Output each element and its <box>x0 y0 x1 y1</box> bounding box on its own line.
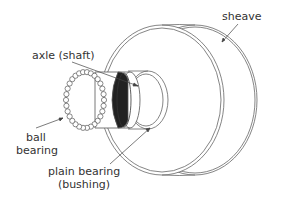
sheave-diagram: sheave axle (shaft) ball bearing plain b… <box>0 0 286 198</box>
ball-bearing-label-line1: ball <box>16 131 56 144</box>
axle-label: axle (shaft) <box>32 49 95 62</box>
bearing-ball <box>100 86 105 91</box>
plain-bearing-label-line1: plain bearing <box>48 165 120 178</box>
plain-bearing-label-line2: (bushing) <box>48 178 120 191</box>
bearing-ball <box>67 114 72 119</box>
bearing-ball <box>65 109 70 114</box>
bearing-ball <box>101 92 106 97</box>
bearing-ball <box>64 103 69 108</box>
sheave-label: sheave <box>222 10 262 23</box>
plain-bearing-label: plain bearing (bushing) <box>48 165 120 191</box>
bearing-ball <box>101 103 106 108</box>
bearing-ball <box>100 109 105 114</box>
bearing-ball <box>98 81 103 86</box>
bearing-ball <box>65 86 70 91</box>
ball-bearing-leader <box>36 118 63 128</box>
bearing-ball <box>64 92 69 97</box>
ball-bearing-label-line2: bearing <box>16 144 56 157</box>
diagram-drawing <box>0 0 286 198</box>
ball-bearing-label: ball bearing <box>16 131 56 157</box>
bearing-ball <box>63 97 68 102</box>
bearing-ball <box>101 97 106 102</box>
